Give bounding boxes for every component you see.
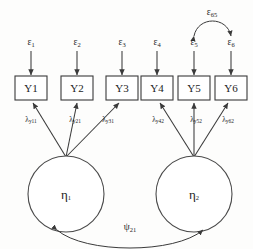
loading-labels: λy11 λy21 λy31 λy42 λy52 λy62 bbox=[25, 115, 234, 125]
indicator-boxes: Y1 Y2 Y3 Y4 Y5 Y6 bbox=[15, 76, 247, 100]
loading-label-ly11: λy11 bbox=[25, 115, 37, 125]
arrow-eta2-to-y6 bbox=[194, 103, 228, 157]
arrow-eta1-to-y1 bbox=[33, 103, 66, 157]
loading-arrows bbox=[33, 103, 228, 157]
loading-label-ly52: λy52 bbox=[190, 115, 202, 125]
loading-label-ly31: λy31 bbox=[102, 115, 114, 125]
sem-path-diagram: Y1 Y2 Y3 Y4 Y5 Y6 ε1 ε2 ε3 ε4 ε5 ε6 ε65 bbox=[0, 0, 253, 249]
loading-label-ly21: λy21 bbox=[69, 115, 81, 125]
loading-label-ly42: λy42 bbox=[152, 115, 164, 125]
error-labels: ε1 ε2 ε3 ε4 ε5 ε6 ε65 bbox=[27, 7, 235, 48]
error-label-e6: ε6 bbox=[227, 37, 235, 48]
arrow-eta1-to-y2 bbox=[66, 103, 77, 157]
error-label-e3: ε3 bbox=[118, 37, 125, 48]
error-label-e5: ε5 bbox=[190, 37, 197, 48]
indicator-label-y5: Y5 bbox=[187, 82, 201, 94]
arrow-eta1-to-y3 bbox=[66, 103, 119, 157]
arrow-eta2-to-y4 bbox=[160, 103, 194, 157]
indicator-label-y2: Y2 bbox=[70, 82, 83, 94]
error-label-e2: ε2 bbox=[73, 37, 80, 48]
residual-covariance-arc bbox=[194, 21, 231, 36]
latent-factors: η1 η2 bbox=[28, 156, 232, 232]
loading-label-ly62: λy62 bbox=[222, 115, 234, 125]
indicator-label-y6: Y6 bbox=[224, 82, 238, 94]
error-label-e1: ε1 bbox=[27, 37, 34, 48]
arc-eps65 bbox=[194, 21, 231, 36]
indicator-label-y3: Y3 bbox=[115, 82, 129, 94]
factor-covariance-label-psi21: ψ21 bbox=[124, 222, 136, 233]
diagram-canvas: Y1 Y2 Y3 Y4 Y5 Y6 ε1 ε2 ε3 ε4 ε5 ε6 ε65 bbox=[0, 0, 253, 249]
indicator-label-y1: Y1 bbox=[24, 82, 37, 94]
error-arrows bbox=[31, 51, 231, 75]
residual-covariance-label-eps65: ε65 bbox=[207, 7, 218, 18]
error-label-e4: ε4 bbox=[153, 37, 161, 48]
indicator-label-y4: Y4 bbox=[150, 82, 164, 94]
